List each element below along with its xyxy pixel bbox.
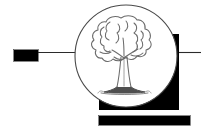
bottom-accent-bar	[99, 116, 190, 125]
left-accent-bar	[14, 50, 38, 61]
logo-artwork	[0, 0, 201, 130]
logo-canvas	[0, 0, 201, 130]
